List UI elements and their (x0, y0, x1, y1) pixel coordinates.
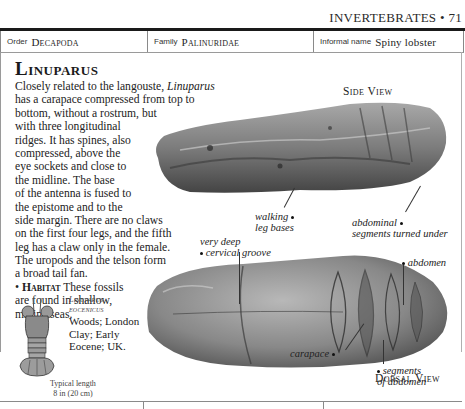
family-label: Family (154, 37, 178, 46)
anno-text: walking (255, 211, 288, 222)
dot-icon (291, 216, 294, 219)
dot-icon (400, 222, 403, 225)
abdomen-label: abdomen (402, 257, 446, 268)
leader-line (403, 265, 404, 305)
family-value: Palinuridae (182, 36, 240, 48)
frame-right-border (461, 52, 462, 352)
typical-length-value: 8 in (20 cm) (50, 389, 96, 399)
leader-line (239, 252, 240, 304)
habitat-label: Habitat (22, 281, 61, 294)
anno-text: abdominal (352, 217, 397, 228)
specimen-genus: Linuparus (69, 295, 104, 305)
order-cell: Order Decapoda (1, 31, 147, 52)
anno-text: very deep (200, 236, 271, 247)
description-line: side margin. There are no claws (15, 214, 250, 227)
anno-text: leg bases (255, 222, 294, 233)
locality-line: Clay; Early (69, 328, 139, 341)
locality-line: Woods; London (69, 315, 139, 328)
abdominal-segments-label: abdominal segments turned under (352, 217, 448, 239)
dot-icon (200, 252, 203, 255)
separator-bullet: • (440, 10, 445, 25)
description-line: Closely related to the langouste, Linupa… (15, 80, 250, 93)
typical-length: Typical length 8 in (20 cm) (50, 379, 96, 399)
classification-bar: Order Decapoda Family Palinuridae Inform… (0, 31, 464, 53)
order-value: Decapoda (31, 36, 78, 48)
dot-icon (377, 370, 380, 373)
segments-of-abdomen-label: segments of abdomen (377, 365, 426, 387)
informal-name-value: Spiny lobster (375, 36, 436, 48)
anno-text: carapace (290, 348, 329, 359)
informal-name-label: Informal name (320, 37, 371, 46)
informal-name-cell: Informal name Spiny lobster (313, 31, 463, 52)
specimen-locality: Woods; London Clay; Early Eocene; UK. (69, 315, 139, 353)
anno-text: segments (383, 365, 422, 376)
description-line: the epistome and to the (15, 201, 250, 214)
family-cell: Family Palinuridae (147, 31, 313, 52)
order-label: Order (7, 37, 27, 46)
locality-line: Eocene; UK. (69, 340, 139, 353)
side-view-fossil-image (150, 98, 450, 198)
running-head: INVERTEBRATES • 71 (329, 10, 462, 26)
anno-text: of abdomen (377, 376, 426, 387)
text: Closely related to the langouste, (15, 80, 167, 93)
lobster-illustration-icon (16, 296, 60, 378)
anno-text: segments turned under (352, 228, 448, 239)
bullet-icon: • (15, 281, 19, 294)
bottom-divider (143, 401, 144, 409)
dot-icon (332, 353, 335, 356)
habitat-text: These fossils (63, 281, 123, 294)
anno-text: abdomen (408, 257, 447, 268)
specimen-species: eocenicus (69, 305, 104, 315)
carapace-label: carapace (290, 348, 335, 359)
walking-leg-bases-label: walking leg bases (255, 211, 294, 233)
bottom-divider (323, 401, 324, 409)
leader-line (383, 340, 384, 364)
cervical-groove-label: very deep cervical groove (200, 236, 271, 258)
typical-length-label: Typical length (50, 379, 96, 389)
bottom-rule (0, 401, 462, 402)
page-number: 71 (448, 10, 462, 25)
genus-italic: Linuparus (167, 80, 215, 93)
entry-title: Linuparus (15, 58, 98, 80)
specimen-name: Linuparus eocenicus (69, 295, 104, 315)
section-title: INVERTEBRATES (329, 10, 436, 25)
side-view-label: Side View (343, 85, 392, 97)
frame-left-border (0, 52, 1, 352)
